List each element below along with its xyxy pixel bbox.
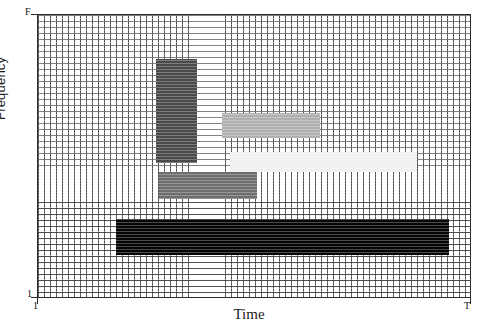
y-axis-title: Frequency — [0, 0, 8, 120]
y-axis-top-tickmark — [31, 14, 37, 15]
tile-gray-lowband — [159, 172, 257, 199]
tile-midgray-midband — [222, 113, 320, 138]
x-axis-right-tickmark — [470, 298, 471, 304]
time-frequency-tiling-figure: F 1 1 T Frequency Time — [0, 0, 498, 335]
y-axis-max-tick-label: F — [25, 6, 31, 17]
tile-dark-narrowband — [156, 59, 198, 163]
plot-area — [37, 14, 471, 298]
tile-palest-wideband — [230, 152, 417, 172]
y-axis-min-tick-label: 1 — [27, 288, 32, 299]
x-axis-title: Time — [0, 306, 498, 323]
tile-black-broadband — [116, 219, 450, 255]
